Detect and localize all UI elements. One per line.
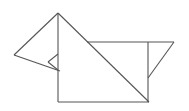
- figure-background: [0, 0, 189, 111]
- tangram-svg: [0, 0, 189, 111]
- tangram-figure-canvas: [0, 0, 189, 111]
